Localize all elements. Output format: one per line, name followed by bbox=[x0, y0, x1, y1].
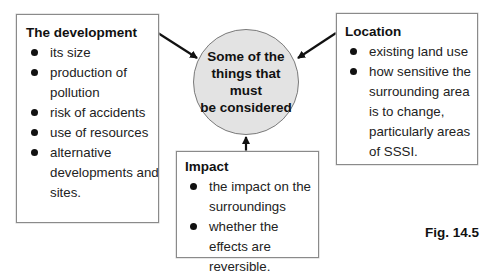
list-item: risk of accidents bbox=[26, 103, 158, 123]
arrow-location-to-center bbox=[298, 33, 336, 58]
figure-label: Fig. 14.5 bbox=[425, 225, 479, 240]
bullet-icon bbox=[31, 109, 38, 116]
location-list: existing land use how sensitive the surr… bbox=[345, 42, 477, 162]
development-box: The development its size production of p… bbox=[16, 14, 159, 223]
arrow-development-to-center bbox=[158, 33, 197, 58]
list-item: its size bbox=[26, 43, 158, 63]
development-list: its size production of pollution risk of… bbox=[26, 43, 158, 203]
impact-box: Impact the impact on the surroundings wh… bbox=[176, 151, 319, 258]
list-item: existing land use bbox=[345, 42, 477, 62]
center-circle: Some of the things that must be consider… bbox=[193, 29, 299, 135]
location-box: Location existing land use how sensitive… bbox=[336, 13, 478, 165]
list-item: the impact on the surroundings bbox=[185, 177, 319, 217]
development-title: The development bbox=[26, 24, 158, 41]
bullet-icon bbox=[31, 129, 38, 136]
list-item: whether the effects are reversible. bbox=[185, 217, 321, 272]
bullet-icon bbox=[350, 68, 357, 75]
bullet-icon bbox=[31, 49, 38, 56]
bullet-icon bbox=[190, 183, 197, 190]
list-item: use of resources bbox=[26, 123, 158, 143]
bullet-icon bbox=[31, 149, 38, 156]
list-item: production of pollution bbox=[26, 63, 160, 103]
bullet-icon bbox=[350, 48, 357, 55]
center-text: Some of the things that must be consider… bbox=[194, 48, 298, 116]
impact-title: Impact bbox=[185, 158, 318, 175]
location-title: Location bbox=[345, 23, 477, 40]
list-item: how sensitive the surrounding area is to… bbox=[345, 62, 481, 162]
impact-list: the impact on the surroundings whether t… bbox=[185, 177, 318, 272]
bullet-icon bbox=[190, 223, 197, 230]
list-item: alternative developments and sites. bbox=[26, 143, 160, 203]
bullet-icon bbox=[31, 69, 38, 76]
